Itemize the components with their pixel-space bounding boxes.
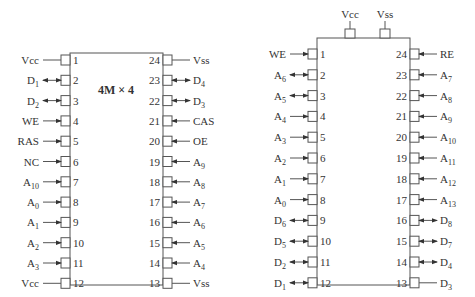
right-chip-pin-24: 24RE <box>396 48 454 60</box>
pin-number: 8 <box>320 194 326 206</box>
pin-pad <box>163 75 172 85</box>
pin-number: 1 <box>320 48 326 60</box>
pin-label: D2 <box>27 95 39 110</box>
pin-pad <box>410 111 419 121</box>
pin-pad <box>410 215 419 225</box>
pin-label: A0 <box>27 196 39 211</box>
pin-label: A4 <box>193 257 205 272</box>
left-chip-pin-11: 11A3 <box>27 257 84 272</box>
pin-number: 4 <box>320 110 326 122</box>
pin-label: D3 <box>440 277 452 292</box>
right-chip-pin-18: 18A12 <box>396 173 456 188</box>
pin-number: 2 <box>320 69 326 81</box>
left-chip-pin-7: 7A10 <box>23 176 79 191</box>
pin-label: D3 <box>193 95 205 110</box>
right-chip-pin-2: 2A6 <box>274 69 325 84</box>
left-chip-pin-2: 2D1 <box>27 74 78 89</box>
pin-number: 5 <box>320 131 326 143</box>
left-chip-pin-17: 17A7 <box>149 196 205 211</box>
pin-number: 16 <box>149 216 161 228</box>
pin-label: A13 <box>440 194 456 209</box>
right-chip-top-pin-vcc: Vcc <box>341 8 359 38</box>
pin-pad <box>308 257 317 267</box>
pin-label: A10 <box>440 131 456 146</box>
pin-pad <box>308 215 317 225</box>
pin-number: 2 <box>73 74 79 86</box>
pin-pad <box>410 174 419 184</box>
pin-number: 1 <box>73 54 79 66</box>
pin-label: Vcc <box>21 277 39 289</box>
pin-pad <box>410 153 419 163</box>
pin-pad <box>61 96 70 106</box>
pin-pad <box>61 278 70 288</box>
pin-number: 8 <box>73 196 79 208</box>
pin-number: 13 <box>396 277 408 289</box>
right-chip-pin-1: 1WE <box>269 48 326 60</box>
pin-label: A1 <box>274 173 286 188</box>
pin-label: A6 <box>193 216 205 231</box>
left-chip-pin-4: 4WE <box>22 115 79 127</box>
pin-label: NC <box>24 156 39 168</box>
right-chip-pin-14: 14D4 <box>396 256 452 271</box>
pin-number: 6 <box>73 156 79 168</box>
right-chip-top-pin-vss: Vss <box>377 8 394 38</box>
right-chip-pin-10: 10D5 <box>274 235 331 250</box>
pin-label: D1 <box>274 277 286 292</box>
pin-label: A2 <box>27 237 39 252</box>
pin-pad <box>61 238 70 248</box>
pin-pad <box>410 91 419 101</box>
left-chip-pin-10: 10A2 <box>27 237 84 252</box>
left-chip-pin-15: 15A5 <box>149 237 205 252</box>
pin-label: A5 <box>193 237 205 252</box>
right-chip-pin-17: 17A13 <box>396 194 456 209</box>
pin-pad <box>410 278 419 288</box>
right-chip-pin-16: 16D8 <box>396 214 452 229</box>
pin-label: A3 <box>274 131 286 146</box>
right-chip-pin-12: 12D1 <box>274 277 331 292</box>
pin-number: 19 <box>396 152 408 164</box>
pin-number: 24 <box>396 48 408 60</box>
left-chip-pin-23: 23D4 <box>149 74 205 89</box>
left-chip-pin-9: 9A1 <box>27 216 79 231</box>
left-chip-pin-6: 6NC <box>24 156 79 168</box>
right-chip-pin-21: 21A9 <box>396 110 452 125</box>
pin-label: A0 <box>274 194 286 209</box>
pin-number: 12 <box>320 277 331 289</box>
pin-pad <box>410 236 419 246</box>
pin-pad <box>163 278 172 288</box>
pin-label: Vss <box>193 54 210 66</box>
pin-number: 7 <box>73 176 79 188</box>
pin-label: RAS <box>18 135 39 147</box>
pin-number: 23 <box>396 69 408 81</box>
pin-number: 12 <box>73 277 84 289</box>
pin-number: 17 <box>149 196 161 208</box>
pin-label: A6 <box>274 69 286 84</box>
pin-number: 20 <box>149 135 161 147</box>
pin-label: D4 <box>193 74 205 89</box>
pin-number: 9 <box>320 214 326 226</box>
pin-label: A7 <box>440 69 452 84</box>
pin-pad <box>163 177 172 187</box>
pin-pad <box>61 75 70 85</box>
pin-pad <box>308 174 317 184</box>
pin-pad <box>308 278 317 288</box>
left-chip-pin-8: 8A0 <box>27 196 79 211</box>
pin-number: 15 <box>149 237 161 249</box>
pin-pad <box>163 258 172 268</box>
pin-number: 14 <box>396 256 408 268</box>
pin-label: RE <box>440 48 454 60</box>
right-chip-pin-19: 19A11 <box>396 152 456 167</box>
pin-pad <box>163 157 172 167</box>
left-chip-pin-13: 13Vss <box>149 277 210 289</box>
pin-pad <box>308 153 317 163</box>
pin-number: 23 <box>149 74 161 86</box>
pin-number: 5 <box>73 135 79 147</box>
pin-number: 11 <box>73 257 84 269</box>
pin-label: A3 <box>27 257 39 272</box>
right-chip-pin-11: 11D2 <box>274 256 331 271</box>
pin-pad <box>163 217 172 227</box>
pin-number: 20 <box>396 131 408 143</box>
right-chip-pin-8: 8A0 <box>274 194 326 209</box>
pin-number: 21 <box>149 115 160 127</box>
pin-pad <box>410 257 419 267</box>
